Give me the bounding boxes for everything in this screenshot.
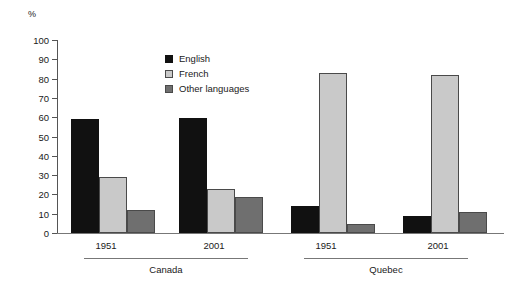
y-tick-label: 20 — [19, 190, 49, 199]
legend-item-other-languages: Other languages — [165, 82, 295, 96]
bar-canada-1951-other — [127, 210, 155, 233]
group-label-quebec: Quebec — [306, 264, 466, 275]
y-tick-label: 80 — [19, 75, 49, 84]
y-axis-tick — [52, 79, 57, 80]
y-axis-unit-label: % — [28, 9, 36, 19]
y-axis-tick-labels: 100 90 80 70 60 50 40 30 20 10 0 — [19, 40, 49, 233]
bar-quebec-1951-english — [291, 206, 319, 233]
group-rule-quebec — [304, 258, 468, 259]
y-axis-tick — [52, 214, 57, 215]
y-axis-tick — [52, 117, 57, 118]
group-rule-canada — [84, 258, 248, 259]
bar-canada-1951-english — [71, 119, 99, 233]
bar-quebec-1951-other — [347, 224, 375, 233]
y-tick-label: 100 — [19, 36, 49, 45]
light-gray-square-icon — [165, 70, 173, 78]
bar-quebec-2001-french — [431, 75, 459, 233]
bar-quebec-1951-french — [319, 73, 347, 233]
y-axis-tick — [52, 233, 57, 234]
bar-quebec-2001-other — [459, 212, 487, 233]
x-tick-label-canada-2001: 2001 — [169, 241, 259, 251]
x-tick-label-canada-1951: 1951 — [61, 241, 151, 251]
y-axis-tick — [52, 40, 57, 41]
y-tick-label: 90 — [19, 55, 49, 64]
y-axis-tick — [52, 156, 57, 157]
black-square-icon — [165, 55, 173, 63]
y-tick-label: 40 — [19, 152, 49, 161]
y-tick-label: 10 — [19, 210, 49, 219]
legend-item-french: French — [165, 67, 295, 81]
y-axis-tick — [52, 137, 57, 138]
bar-canada-2001-french — [207, 189, 235, 233]
y-axis-tick — [52, 194, 57, 195]
legend-label: Other languages — [179, 84, 249, 94]
y-tick-label: 50 — [19, 133, 49, 142]
bar-canada-1951-french — [99, 177, 127, 233]
y-axis-tick — [52, 175, 57, 176]
x-axis-baseline — [57, 233, 504, 234]
y-tick-label: 30 — [19, 171, 49, 180]
bar-chart: % 100 90 80 70 60 50 40 30 20 10 0 — [0, 0, 531, 294]
bar-quebec-2001-english — [403, 216, 431, 233]
y-tick-label: 0 — [19, 229, 49, 238]
y-axis-tick — [52, 59, 57, 60]
group-label-canada: Canada — [86, 264, 246, 275]
bar-canada-2001-other — [235, 197, 263, 233]
y-axis-line — [57, 40, 58, 233]
y-tick-label: 70 — [19, 94, 49, 103]
legend-label: English — [179, 54, 210, 64]
bar-canada-2001-english — [179, 118, 207, 233]
x-tick-label-quebec-2001: 2001 — [393, 241, 483, 251]
chart-legend: English French Other languages — [165, 52, 295, 97]
y-tick-label: 60 — [19, 113, 49, 122]
legend-item-english: English — [165, 52, 295, 66]
dark-gray-square-icon — [165, 85, 173, 93]
legend-label: French — [179, 69, 209, 79]
y-axis-tick — [52, 98, 57, 99]
x-tick-label-quebec-1951: 1951 — [281, 241, 371, 251]
